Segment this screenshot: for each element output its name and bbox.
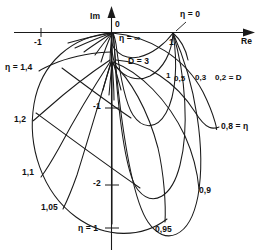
- curve-eta-0-9: [113, 62, 199, 189]
- label-d-0-5: 0,5: [174, 75, 185, 83]
- label-eta-0-9: 0,9: [199, 186, 211, 195]
- label-eta-0-8: 0,8 = η: [221, 122, 248, 131]
- tick-label-imag-minus-2: -2: [93, 179, 101, 188]
- tick-label-imag-minus-1: -1: [93, 102, 101, 111]
- label-eta-0-95: 0,95: [155, 225, 172, 234]
- curve-eta-1-05: [63, 63, 111, 209]
- label-d-0-2: 0,2 = D: [215, 74, 242, 82]
- label-eta-infinity: η = ∞: [119, 34, 140, 43]
- label-eta-1-05: 1,05: [41, 203, 58, 212]
- label-eta-1-2: 1,2: [14, 115, 26, 124]
- imaginary-axis-label: Im: [90, 12, 100, 21]
- imaginary-axis-arrowhead: [108, 6, 116, 18]
- leader-eta-zero: [176, 22, 186, 31]
- curve-eta-1-4: [39, 52, 111, 71]
- label-eta-1-1: 1,1: [22, 168, 34, 177]
- label-eta-0: η = 0: [180, 10, 200, 19]
- curve-d-0-2: [113, 33, 201, 236]
- complex-plane-locus-figure: Im Re 0 -1 1 -1 -2 η = 0 η = ∞ D = 3 1 0…: [0, 0, 272, 251]
- label-eta-1: η = 1: [78, 224, 98, 233]
- origin-label: 0: [115, 20, 120, 29]
- label-d-1: 1: [166, 72, 171, 80]
- label-eta-1-4: η = 1,4: [5, 63, 32, 72]
- tick-label-real-minus-1: -1: [34, 38, 42, 47]
- label-d-0-3: 0,3: [195, 74, 206, 82]
- curve-eta-1-2: [33, 60, 110, 121]
- tick-label-real-1: 1: [169, 38, 174, 47]
- curve-layer: [32, 33, 219, 236]
- real-axis-label: Re: [241, 37, 252, 46]
- curve-tie-2: [36, 113, 140, 188]
- label-d-3: D = 3: [128, 57, 149, 66]
